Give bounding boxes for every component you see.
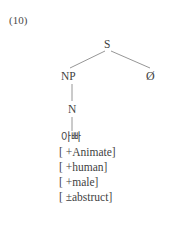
tree-node-null: Ø	[146, 70, 155, 83]
figure-container: (10) S NP Ø N 아빠 [ +Animate] [ +human] […	[0, 0, 176, 225]
tree-terminal-word: 아빠	[61, 131, 81, 144]
feature-abstruct: [ ±abstruct]	[59, 191, 116, 204]
example-number-label: (10)	[9, 14, 27, 27]
tree-node-s: S	[104, 38, 110, 51]
tree-node-np: NP	[61, 70, 76, 83]
branch-s-to-np	[70, 51, 105, 68]
feature-animate: [ +Animate]	[59, 146, 116, 159]
feature-human: [ +human]	[59, 161, 116, 174]
feature-matrix: [ +Animate] [ +human] [ +male] [ ±abstru…	[59, 146, 116, 204]
feature-male: [ +male]	[59, 176, 116, 189]
branch-s-to-null	[111, 51, 150, 68]
tree-node-n: N	[68, 103, 76, 116]
